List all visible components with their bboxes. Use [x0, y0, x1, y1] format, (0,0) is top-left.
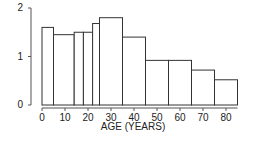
x-tick-label: 0 [39, 112, 45, 123]
histogram-bar [54, 35, 75, 105]
y-tick-label: 2 [17, 2, 23, 13]
histogram-bar [83, 32, 92, 105]
x-tick-label: 10 [59, 112, 71, 123]
x-tick-label: 80 [220, 112, 232, 123]
histogram-bar [123, 37, 146, 105]
histogram-bar [93, 24, 100, 105]
histogram-bar [169, 60, 192, 105]
histogram-bar [74, 32, 83, 105]
histogram-bar [192, 70, 215, 105]
y-axis: 012 [17, 2, 31, 110]
x-tick-label: 70 [197, 112, 209, 123]
histogram-bar [100, 18, 123, 105]
x-tick-label: 20 [82, 112, 94, 123]
histogram-chart: 012 01020304050607080 AGE (YEARS) [0, 0, 257, 144]
y-tick-label: 0 [17, 99, 23, 110]
histogram-bar [42, 27, 54, 105]
histogram-bar [215, 80, 238, 105]
x-axis-title: AGE (YEARS) [101, 121, 165, 132]
x-tick-label: 60 [174, 112, 186, 123]
histogram-bars [42, 18, 238, 105]
y-tick-label: 1 [17, 51, 23, 62]
histogram-bar [146, 60, 169, 105]
